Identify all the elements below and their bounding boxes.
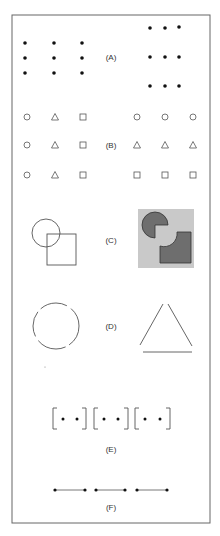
- panel-b-label: (B): [106, 141, 117, 150]
- panel-a-right-dot-rows: [148, 25, 181, 88]
- panel-c-label: (C): [105, 236, 116, 245]
- panel-d-left-broken-circle: [33, 303, 79, 349]
- panel-b-left-shape-columns: [24, 114, 86, 179]
- panel-f-label: (F): [106, 503, 116, 512]
- panel-c-right-figure-ground: [138, 209, 194, 268]
- panel-e-label: (E): [106, 445, 117, 454]
- figure-canvas: [0, 0, 220, 536]
- panel-e-bracket-groups: [53, 408, 170, 429]
- scan-speck: [44, 366, 45, 367]
- panel-b-right-shape-rows: [134, 114, 197, 178]
- panel-d-right-broken-triangle: [140, 304, 192, 352]
- panel-d-label: (D): [105, 322, 116, 331]
- panel-a-label: (A): [106, 53, 117, 62]
- panel-c-left-overlap: [32, 219, 76, 265]
- panel-f-connected-pairs: [53, 488, 168, 491]
- panel-a-left-dot-grid: [23, 41, 84, 75]
- gestalt-figure: (A) (B) (C) (D) (E) (F): [0, 0, 220, 536]
